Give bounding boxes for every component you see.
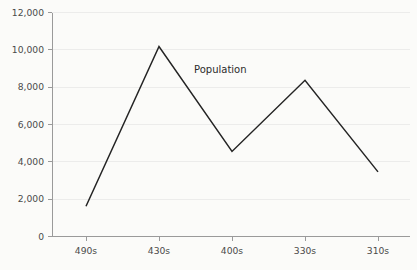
population-line-chart: 0 2,000 4,000 6,000 8,000 10,000 12,000 … — [0, 0, 417, 270]
y-tick-label-12000: 12,000 — [12, 7, 44, 18]
x-tick-label-490s: 490s — [75, 245, 98, 256]
y-tick-label-0: 0 — [38, 231, 44, 242]
series-label-population: Population — [194, 64, 247, 75]
y-tick-label-4000: 4,000 — [18, 156, 44, 167]
y-tick-label-6000: 6,000 — [18, 119, 44, 130]
x-tick-label-330s: 330s — [294, 245, 317, 256]
chart-background — [0, 0, 417, 270]
y-tick-label-10000: 10,000 — [12, 44, 44, 55]
y-tick-label-8000: 8,000 — [18, 81, 44, 92]
y-tick-label-2000: 2,000 — [18, 193, 44, 204]
x-tick-label-430s: 430s — [148, 245, 171, 256]
x-tick-label-310s: 310s — [367, 245, 390, 256]
line-chart-container: 0 2,000 4,000 6,000 8,000 10,000 12,000 … — [0, 0, 417, 270]
x-tick-label-400s: 400s — [221, 245, 244, 256]
